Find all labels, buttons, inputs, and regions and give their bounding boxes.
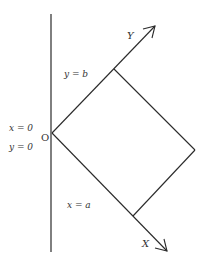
origin-label: O xyxy=(41,133,49,143)
y-axis-label: Y xyxy=(127,31,134,41)
diagram-canvas: Y y = b x = 0 O y = 0 x = a X xyxy=(0,0,208,265)
line-y-eq-b-label: y = b xyxy=(64,70,88,79)
line-x-eq-a-label: x = a xyxy=(67,201,91,210)
rect-edge-x-eq-a-parallel xyxy=(114,69,195,150)
x-axis-line xyxy=(52,133,167,251)
x-axis-label: X xyxy=(142,239,149,249)
y-axis-line xyxy=(52,26,155,133)
origin-y-label: y = 0 xyxy=(9,143,33,152)
origin-x-label: x = 0 xyxy=(9,124,33,133)
rect-edge-y-eq-b-parallel xyxy=(133,150,195,216)
